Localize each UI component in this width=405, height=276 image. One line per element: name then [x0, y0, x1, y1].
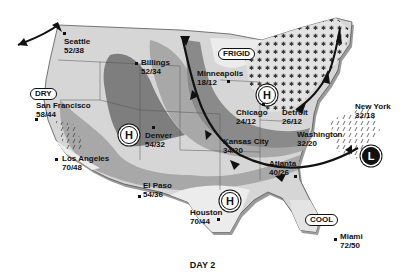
city-denver: Denver54/32 [145, 131, 172, 149]
label-dry: DRY [30, 88, 57, 100]
city-atlanta: Atlanta40/26 [269, 159, 296, 177]
city-detroit: Detroit26/12 [282, 108, 308, 126]
city-dot-houston [217, 218, 220, 221]
city-houston: Houston70/44 [190, 208, 222, 226]
city-dot-miami [334, 238, 337, 241]
label-frigid: FRIGID [218, 48, 255, 60]
high-pressure-midwest: H [258, 86, 276, 104]
city-chicago: Chicago24/12 [236, 108, 268, 126]
city-kansas-city: Kansas City34/20 [223, 137, 269, 155]
city-washington: Washington32/20 [297, 130, 342, 148]
high-pressure-west: H [120, 126, 138, 144]
city-dot-los-angeles [55, 158, 58, 161]
high-pressure-south: H [221, 192, 239, 210]
city-dot-chicago [262, 103, 265, 106]
city-dot-minneapolis [227, 80, 230, 83]
city-san-francisco: San Francisco58/44 [36, 101, 91, 119]
city-seattle: Seattle52/38 [64, 37, 90, 55]
city-billings: Billings52/34 [141, 58, 170, 76]
city-dot-san-francisco [35, 118, 38, 121]
label-cool: COOL [305, 214, 338, 226]
city-dot-seattle [63, 32, 66, 35]
city-los-angeles: Los Angeles70/48 [62, 154, 109, 172]
city-dot-denver [152, 126, 155, 129]
low-pressure-atlantic: L [362, 147, 380, 165]
city-new-york: New York32/18 [355, 102, 391, 120]
city-dot-el-paso [138, 195, 141, 198]
city-dot-atlanta [294, 175, 297, 178]
city-el-paso: El Paso54/36 [143, 181, 172, 199]
city-dot-billings [135, 62, 138, 65]
city-miami: Miami72/50 [340, 232, 363, 250]
city-minneapolis: Minneapolis18/12 [197, 69, 243, 87]
map-caption: DAY 2 [0, 260, 405, 270]
